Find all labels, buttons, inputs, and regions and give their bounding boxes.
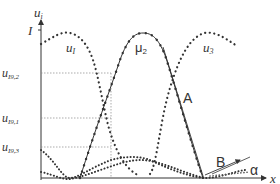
- curve-low-right: [41, 160, 245, 179]
- y-tick-u191: uI9,1: [2, 111, 19, 126]
- label-mu2: μ2: [135, 40, 148, 56]
- x-axis-label: x: [269, 171, 276, 184]
- label-u3: u3: [203, 40, 214, 56]
- y-axis-label: ui: [34, 5, 43, 21]
- curve-low-left: [41, 150, 204, 178]
- label-a: A: [183, 90, 193, 106]
- svg-text:uI9,1: uI9,1: [2, 111, 19, 126]
- y-tick-I: I: [27, 23, 33, 38]
- curve-u3: [150, 33, 237, 174]
- line-a: [163, 47, 203, 176]
- curve-u1: [41, 33, 140, 176]
- svg-text:uI9,3: uI9,3: [2, 140, 20, 155]
- svg-text:uI9,2: uI9,2: [2, 66, 20, 81]
- label-alpha: α: [250, 162, 258, 178]
- label-u1: uI: [66, 40, 76, 56]
- fuzzy-membership-diagram: ui x I uI9,2 uI9,1 uI9,3 v1 xI9 v2 v3 uI…: [0, 0, 280, 184]
- label-b: B: [216, 154, 225, 170]
- y-tick-u193: uI9,3: [2, 140, 20, 155]
- y-tick-u192: uI9,2: [2, 66, 20, 81]
